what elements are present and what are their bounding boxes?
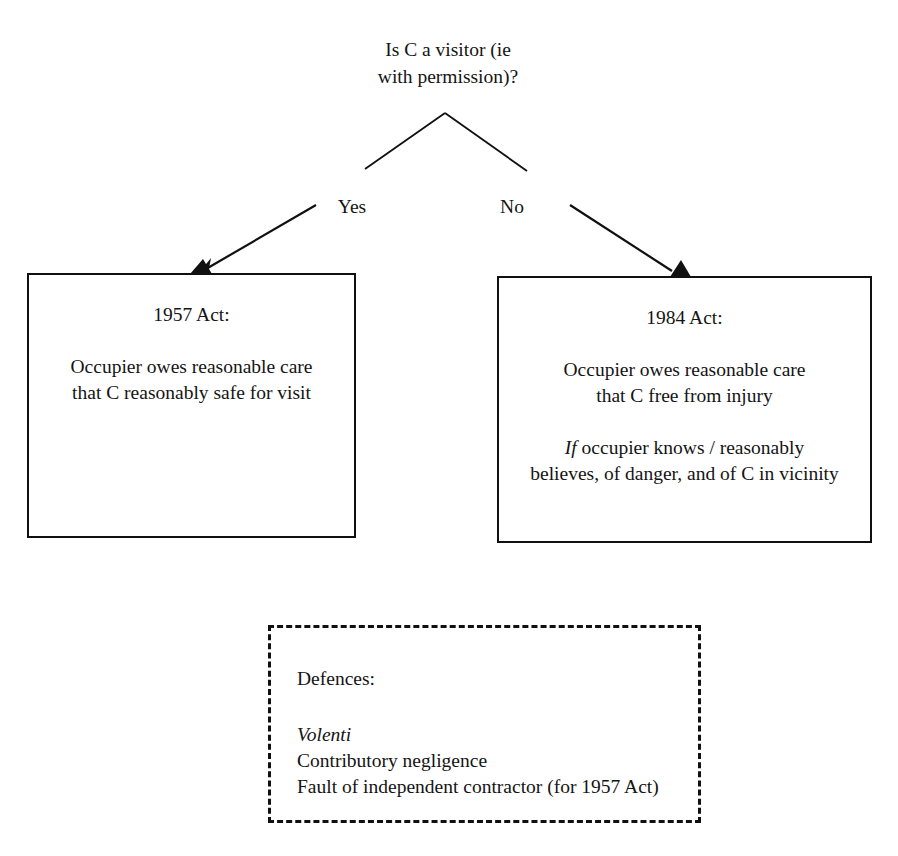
defences-list: Volenti Contributory negligence Fault of… [297,722,698,800]
diagram-canvas: Is C a visitor (ie with permission)? Yes… [0,0,898,856]
outcome-heading-1957: 1957 Act: [29,302,354,328]
outcome-paragraph-1957-duty: Occupier owes reasonable care that C rea… [29,354,354,406]
outcome-paragraph-1984-duty: Occupier owes reasonable care that C fre… [499,357,870,409]
split-line-right [445,113,527,171]
outcome-heading-1984: 1984 Act: [499,305,870,331]
branch-label-no: No [482,196,542,218]
arrow-line-no [570,205,672,271]
outcome-box-1984-act: 1984 Act: Occupier owes reasonable care … [497,276,872,543]
outcome-box-1984-content: 1984 Act: Occupier owes reasonable care … [499,278,870,487]
condition-italic-lead: If [565,437,577,458]
split-line-left [365,113,445,169]
defences-list-item: Fault of independent contractor (for 195… [297,774,698,800]
defences-list-item: Contributory negligence [297,748,698,774]
defences-list-item: Volenti [297,722,698,748]
branch-label-yes: Yes [322,196,382,218]
arrowhead-no [670,260,691,277]
outcome-paragraph-1984-condition: If occupier knows / reasonably believes,… [499,435,870,487]
condition-body: occupier knows / reasonably believes, of… [530,437,838,484]
defences-heading: Defences: [297,666,698,692]
outcome-box-1957-content: 1957 Act: Occupier owes reasonable care … [29,275,354,406]
defences-box: Defences: Volenti Contributory negligenc… [268,625,701,823]
arrow-line-yes [206,205,316,269]
outcome-box-1957-act: 1957 Act: Occupier owes reasonable care … [27,273,356,538]
defences-content: Defences: Volenti Contributory negligenc… [271,628,698,800]
